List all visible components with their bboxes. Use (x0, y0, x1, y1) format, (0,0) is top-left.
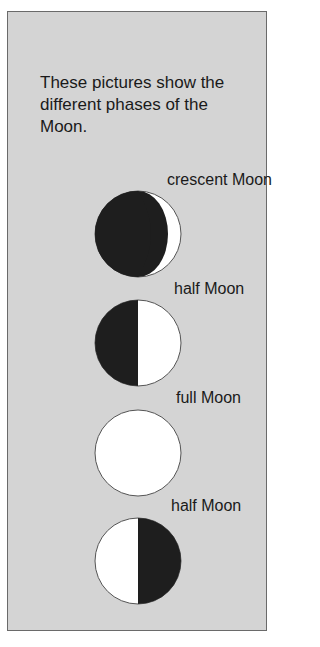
half-moon-label-2: half Moon (171, 497, 241, 515)
half-moon-icon-left-dark (94, 299, 182, 387)
full-moon-label: full Moon (176, 389, 241, 407)
crescent-moon-icon (94, 190, 182, 278)
half-moon-icon-right-dark (94, 517, 182, 605)
full-moon-icon (94, 409, 182, 497)
crescent-moon-label: crescent Moon (167, 171, 272, 189)
half-moon-label-1: half Moon (174, 280, 244, 298)
intro-text: These pictures show the different phases… (40, 72, 240, 138)
